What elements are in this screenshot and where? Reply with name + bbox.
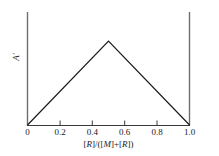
x-tick-label-0: 0 [25,127,30,137]
y-axis-label: A′ [9,46,23,68]
y-label-prime: ′ [11,53,21,55]
x-tick-label-4: 0.8 [151,127,162,137]
x-label-sep-2: ]+[ [111,139,122,149]
data-series-job-plot [28,41,190,125]
y-label-var-a: A [11,55,21,61]
x-axis-label: [R]/([M]+[R]) [83,139,133,150]
x-tick-label-1: 0.2 [54,127,65,137]
x-tick-label-5: 1.0 [184,127,195,137]
x-label-bracket-close: ]) [128,139,134,149]
job-plot-chart: 0 0.2 0.4 0.6 0.8 1.0 [R]/([M]+[R]) A′ [0,0,219,156]
x-label-var-m: M [103,139,111,149]
x-tick-label-3: 0.6 [119,127,130,137]
x-axis-ticks [60,121,157,126]
x-tick-label-2: 0.4 [87,127,98,137]
x-label-sep-1: ]/([ [92,139,104,149]
